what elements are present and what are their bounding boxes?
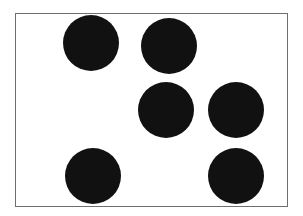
- dot-2: [141, 18, 197, 74]
- dot-5: [65, 148, 121, 204]
- dots-canvas: [0, 0, 303, 216]
- dot-6: [208, 148, 264, 204]
- dots-group: [63, 15, 264, 204]
- dot-4: [208, 82, 264, 138]
- dot-1: [63, 15, 119, 71]
- dot-3: [138, 82, 194, 138]
